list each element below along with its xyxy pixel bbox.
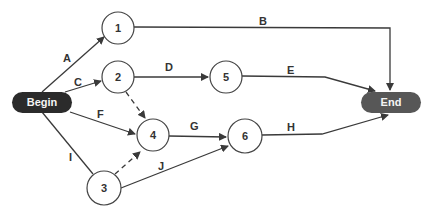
- label-d: D: [165, 61, 173, 73]
- edge-i: [42, 112, 93, 174]
- node-3-label: 3: [101, 182, 107, 194]
- node-2-label: 2: [115, 71, 121, 83]
- edge-c: [65, 81, 101, 92]
- end-terminal: End: [361, 92, 421, 113]
- edge-e: [242, 76, 375, 91]
- node-4-label: 4: [150, 129, 157, 141]
- label-b: B: [259, 15, 267, 27]
- label-e: E: [287, 64, 294, 76]
- edge-a: [42, 37, 104, 92]
- edge-b: [134, 27, 390, 90]
- node-6-label: 6: [242, 130, 248, 142]
- label-h: H: [287, 121, 295, 133]
- network-diagram: A B C D E F G H I J Begin End 1 2 3 4 5 …: [0, 0, 431, 217]
- dummy-edge-2-4: [126, 92, 145, 118]
- label-c: C: [74, 76, 82, 88]
- label-g: G: [190, 120, 199, 132]
- label-i: I: [69, 151, 72, 163]
- label-f: F: [97, 108, 104, 120]
- label-a: A: [63, 52, 71, 64]
- node-5-label: 5: [223, 71, 229, 83]
- node-1-label: 1: [115, 22, 121, 34]
- edge-h: [262, 115, 388, 135]
- begin-terminal: Begin: [12, 92, 72, 113]
- edge-g: [169, 136, 226, 137]
- end-label: End: [381, 96, 402, 108]
- dummy-edge-3-4: [115, 152, 140, 174]
- edge-j: [121, 146, 228, 188]
- begin-label: Begin: [27, 96, 58, 108]
- label-j: J: [158, 160, 164, 172]
